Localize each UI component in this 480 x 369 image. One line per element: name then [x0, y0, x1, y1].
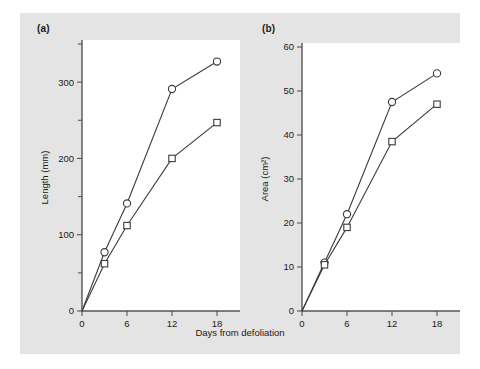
plot-area: [302, 43, 460, 311]
y-tick-label: 10: [283, 261, 294, 272]
y-axis-label: Length (mm): [39, 151, 50, 205]
data-marker-square: [101, 261, 107, 267]
data-marker-square: [434, 101, 440, 107]
data-marker-square: [169, 155, 175, 161]
data-marker-square: [389, 138, 395, 144]
data-marker-circle: [168, 85, 175, 92]
shared-x-axis-label: Days from defoliation: [20, 327, 460, 338]
data-marker-square: [344, 224, 350, 230]
y-tick-label: 300: [58, 77, 74, 88]
data-marker-square: [214, 119, 220, 125]
data-marker-circle: [388, 98, 395, 105]
y-tick-label: 100: [58, 229, 74, 240]
y-tick-label: 60: [283, 41, 294, 52]
data-marker-circle: [213, 58, 220, 65]
data-marker-square: [124, 222, 130, 228]
figure-root: (a) 0100200300061218Length (mm) (b) 0102…: [0, 0, 480, 369]
plot-a-svg: 0100200300061218Length (mm): [20, 13, 240, 354]
chart-panel-b: (b) 0102030405060061218Area (cm²): [240, 13, 460, 354]
data-marker-circle: [101, 249, 108, 256]
y-tick-label: 20: [283, 217, 294, 228]
data-marker-circle: [343, 211, 350, 218]
data-marker-circle: [123, 200, 130, 207]
y-tick-label: 0: [69, 305, 74, 316]
y-tick-label: 30: [283, 173, 294, 184]
y-tick-label: 0: [289, 305, 294, 316]
data-marker-circle: [433, 70, 440, 77]
plot-b-svg: 0102030405060061218Area (cm²): [240, 13, 460, 354]
figure-background: (a) 0100200300061218Length (mm) (b) 0102…: [20, 13, 460, 354]
y-tick-label: 50: [283, 85, 294, 96]
y-tick-label: 200: [58, 153, 74, 164]
y-tick-label: 40: [283, 129, 294, 140]
y-axis-label: Area (cm²): [259, 157, 270, 202]
chart-panel-a: (a) 0100200300061218Length (mm): [20, 13, 240, 354]
data-marker-square: [321, 262, 327, 268]
